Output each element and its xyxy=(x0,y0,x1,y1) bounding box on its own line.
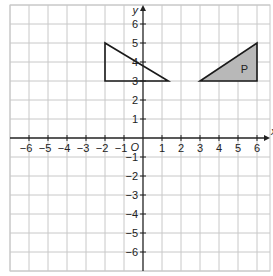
x-tick-label: −2 xyxy=(96,142,109,154)
shape-label-p: P xyxy=(241,63,248,75)
y-tick-label: −6 xyxy=(125,246,138,258)
x-tick-label: 5 xyxy=(235,142,241,154)
y-tick-label: 1 xyxy=(132,113,138,125)
y-axis-arrow-icon xyxy=(140,5,146,11)
x-tick-label: 4 xyxy=(216,142,222,154)
x-tick-label: −5 xyxy=(39,142,52,154)
y-tick-label: 2 xyxy=(132,94,138,106)
y-tick-label: 5 xyxy=(132,37,138,49)
y-tick-label: 4 xyxy=(132,56,138,68)
y-tick-label: −4 xyxy=(125,208,138,220)
y-tick-label: 3 xyxy=(132,75,138,87)
y-tick-label: −5 xyxy=(125,227,138,239)
x-axis-arrow-icon xyxy=(264,135,270,141)
x-tick-label: −4 xyxy=(58,142,71,154)
x-tick-label: −6 xyxy=(20,142,33,154)
x-tick-label: 2 xyxy=(178,142,184,154)
tick-labels: −6−5−4−3−2−1123456654321−1−2−3−4−5−6Oyx xyxy=(20,4,273,258)
axes xyxy=(10,5,270,271)
coordinate-grid-diagram: P −6−5−4−3−2−1123456654321−1−2−3−4−5−6Oy… xyxy=(0,0,273,276)
origin-label: O xyxy=(130,141,139,153)
y-tick-label: −3 xyxy=(125,189,138,201)
x-tick-label: 1 xyxy=(159,142,165,154)
x-axis-label: x xyxy=(270,125,273,137)
x-tick-label: 3 xyxy=(197,142,203,154)
x-tick-label: −3 xyxy=(77,142,90,154)
grid-canvas: P −6−5−4−3−2−1123456654321−1−2−3−4−5−6Oy… xyxy=(0,0,273,276)
x-tick-label: 6 xyxy=(254,142,260,154)
y-tick-label: 6 xyxy=(132,18,138,30)
y-axis-label: y xyxy=(132,4,140,16)
y-tick-label: −2 xyxy=(125,170,138,182)
